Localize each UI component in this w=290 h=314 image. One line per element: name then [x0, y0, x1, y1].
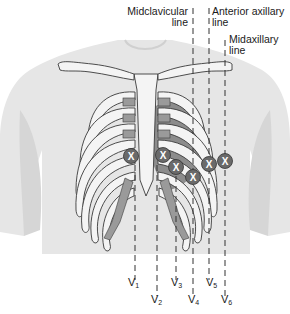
- electrode-v4: X: [186, 170, 201, 185]
- midaxillary-label: Midaxillary line: [229, 34, 279, 56]
- svg-text:X: X: [128, 151, 135, 162]
- svg-text:X: X: [160, 150, 167, 161]
- lead-label-v5: V5: [206, 277, 217, 291]
- lead-label-v1: V1: [128, 277, 139, 291]
- lead-label-v6: V6: [221, 294, 232, 308]
- svg-text:X: X: [206, 159, 213, 170]
- anterior-axillary-label: Anterior axillary line: [212, 6, 284, 28]
- lead-label-v4: V4: [188, 294, 199, 308]
- electrode-v3: X: [169, 160, 184, 175]
- lead-label-v2: V2: [151, 294, 162, 308]
- svg-text:X: X: [173, 162, 180, 173]
- lead-label-v3: V3: [171, 277, 182, 291]
- electrode-v6: X: [218, 154, 233, 169]
- electrode-v2: X: [156, 148, 171, 163]
- electrode-v1: X: [124, 149, 139, 164]
- ecg-lead-diagram: XXXXXX Midclavicular line Anterior axill…: [0, 0, 290, 314]
- midclavicular-label: Midclavicular line: [108, 6, 188, 28]
- electrode-v5: X: [202, 157, 217, 172]
- svg-text:X: X: [222, 156, 229, 167]
- svg-text:X: X: [190, 172, 197, 183]
